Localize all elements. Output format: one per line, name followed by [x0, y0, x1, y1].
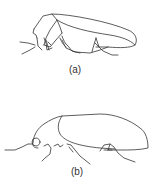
panel-label-a: (a) [55, 64, 95, 75]
beetle-a-drawing [0, 0, 157, 92]
panel-label-b: (b) [57, 166, 97, 177]
figure-panel-b: (b) [0, 92, 157, 183]
figure-panel-a: (a) [0, 0, 157, 92]
